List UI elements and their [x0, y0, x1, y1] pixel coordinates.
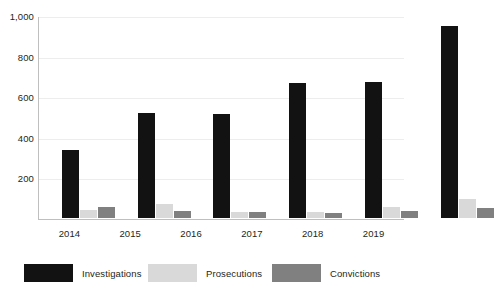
- bar-convictions-2018: [401, 211, 418, 218]
- legend-label: Convictions: [330, 268, 380, 279]
- legend-label: Investigations: [82, 268, 142, 279]
- bar-prosecutions-2014: [80, 210, 97, 218]
- legend-item-prosecutions[interactable]: Prosecutions: [148, 264, 272, 282]
- bar-convictions-2016: [249, 212, 266, 218]
- bar-group: [116, 17, 192, 218]
- bar-convictions-2019: [477, 208, 494, 218]
- legend-swatch-investigations: [24, 264, 73, 282]
- bar-prosecutions-2019: [459, 199, 476, 218]
- bar-investigations-2019: [441, 26, 458, 218]
- bar-convictions-2017: [325, 213, 342, 218]
- x-tick-label: 2019: [343, 228, 404, 240]
- bar-prosecutions-2016: [231, 212, 248, 218]
- bar-group: [267, 17, 343, 218]
- y-tick-label: 200: [0, 174, 34, 184]
- bar-group: [419, 17, 495, 218]
- x-tick-label: 2015: [100, 228, 161, 240]
- y-tick-label: 600: [0, 93, 34, 103]
- chart-legend: InvestigationsProsecutionsConvictions: [24, 264, 396, 282]
- bar-group: [343, 17, 419, 218]
- bar-investigations-2015: [138, 113, 155, 218]
- x-tick-label: 2014: [39, 228, 100, 240]
- bar-prosecutions-2015: [156, 204, 173, 218]
- legend-swatch-convictions: [272, 264, 321, 282]
- x-tick-label: 2018: [282, 228, 343, 240]
- y-tick-label: 1,000: [0, 12, 34, 22]
- legend-item-investigations[interactable]: Investigations: [24, 264, 148, 282]
- x-tick-label: 2017: [221, 228, 282, 240]
- bar-convictions-2015: [174, 211, 191, 218]
- bar-prosecutions-2018: [383, 207, 400, 218]
- bar-investigations-2018: [365, 82, 382, 218]
- bar-group: [40, 17, 116, 218]
- bar-convictions-2014: [98, 207, 115, 218]
- x-tick-label: 2016: [161, 228, 222, 240]
- bar-investigations-2014: [62, 150, 79, 218]
- x-axis: 201420152016201720182019: [39, 228, 404, 240]
- legend-swatch-prosecutions: [148, 264, 197, 282]
- bar-prosecutions-2017: [307, 212, 324, 218]
- bar-investigations-2017: [289, 83, 306, 218]
- bar-group: [192, 17, 268, 218]
- y-tick-label: 800: [0, 53, 34, 63]
- bar-investigations-2016: [213, 114, 230, 218]
- bar-groups: [40, 17, 404, 218]
- plot-area: [38, 17, 404, 220]
- legend-label: Prosecutions: [206, 268, 262, 279]
- plot-region: [38, 17, 404, 220]
- y-axis: 1,000800600400200: [0, 0, 34, 220]
- legend-item-convictions[interactable]: Convictions: [272, 264, 396, 282]
- y-tick-label: 400: [0, 134, 34, 144]
